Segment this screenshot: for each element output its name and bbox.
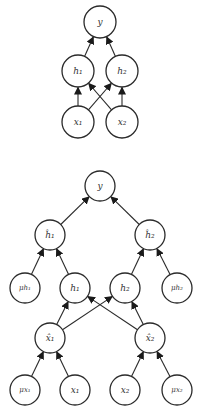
edge-x2-to-xhat2 <box>131 352 143 377</box>
node-x2: x₂ <box>106 106 138 138</box>
node-label: x₂ <box>118 117 127 127</box>
graphical-model-diagram: yh₁h₂x₁x₂ yĥ₁ĥ₂μh₁h₁h₂μh₂x̂₁x̂₂μx₁x₁x₂μx… <box>0 0 200 416</box>
node-mu_h1: μh₁ <box>10 273 40 303</box>
edge-hhat1-to-y <box>61 197 89 225</box>
node-mu_h2: μh₂ <box>162 273 192 303</box>
node-hhat1: ĥ₁ <box>35 220 65 250</box>
edge-h2-to-y <box>107 37 116 56</box>
node-label: μx₂ <box>171 386 182 394</box>
edge-mu_h2-to-hhat2 <box>157 249 170 275</box>
edge-hhat2-to-y <box>111 197 139 225</box>
edge-mu_h1-to-hhat1 <box>31 249 43 274</box>
node-label: x̂₂ <box>146 333 155 343</box>
nodes: yĥ₁ĥ₂μh₁h₁h₂μh₂x̂₁x̂₂μx₁x₁x₂μx₂ <box>10 171 192 405</box>
node-label: h₂ <box>120 283 130 293</box>
edge-h2-to-hhat2 <box>131 249 143 274</box>
node-x2: x₂ <box>110 375 140 405</box>
node-y: y <box>84 6 116 38</box>
node-x1: x₁ <box>62 106 94 138</box>
node-label: ĥ₂ <box>145 229 155 240</box>
edge-h1-to-y <box>85 37 94 56</box>
node-h1: h₁ <box>60 273 90 303</box>
node-label: x₁ <box>71 385 80 395</box>
edge-mu_x2-to-xhat2 <box>157 352 170 377</box>
edge-xhat1-to-h1 <box>57 302 68 325</box>
node-label: μh₂ <box>171 284 183 292</box>
node-y: y <box>85 171 115 201</box>
node-label: μh₁ <box>19 284 31 292</box>
node-label: ĥ₁ <box>45 229 54 240</box>
edge-h1-to-hhat1 <box>57 249 69 274</box>
node-label: y <box>96 17 103 27</box>
edge-mu_x1-to-xhat1 <box>31 352 43 377</box>
edge-x1-to-xhat1 <box>57 352 69 377</box>
node-xhat2: x̂₂ <box>135 323 165 353</box>
node-label: h₁ <box>73 66 82 76</box>
node-h2: h₂ <box>110 273 140 303</box>
node-label: h₁ <box>70 283 79 293</box>
edge-xhat2-to-h2 <box>132 302 143 325</box>
node-label: h₂ <box>117 66 127 76</box>
node-label: x₁ <box>74 117 83 127</box>
node-h2: h₂ <box>106 55 138 87</box>
node-label: x̂₁ <box>46 333 55 343</box>
nodes: yh₁h₂x₁x₂ <box>62 6 138 138</box>
node-x1: x₁ <box>60 375 90 405</box>
node-label: x₂ <box>121 385 130 395</box>
node-mu_x1: μx₁ <box>10 375 40 405</box>
simple-network-diagram: yh₁h₂x₁x₂ <box>62 6 138 138</box>
noisy-network-diagram: yĥ₁ĥ₂μh₁h₁h₂μh₂x̂₁x̂₂μx₁x₁x₂μx₂ <box>10 171 192 405</box>
node-label: y <box>96 181 103 191</box>
node-xhat1: x̂₁ <box>35 323 65 353</box>
node-mu_x2: μx₂ <box>162 375 192 405</box>
node-label: μx₁ <box>19 386 30 394</box>
node-hhat2: ĥ₂ <box>135 220 165 250</box>
node-h1: h₁ <box>62 55 94 87</box>
